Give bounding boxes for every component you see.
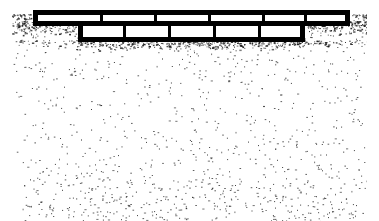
figure-canvas: Cellular raft foundation embedded in soi… [0, 0, 379, 221]
soil-mass [12, 14, 367, 221]
soil-stipple-texture [12, 14, 367, 221]
